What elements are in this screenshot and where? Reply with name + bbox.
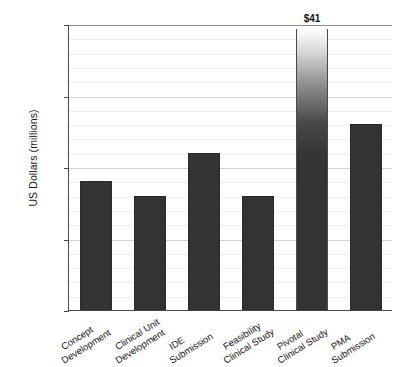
bar (134, 196, 166, 310)
bar (80, 181, 112, 310)
x-axis-label: IDESubmission (167, 315, 223, 362)
y-tick-mark (64, 311, 69, 312)
y-tick-mark (64, 240, 69, 241)
y-tick-mark (64, 97, 69, 98)
x-axis-label: FeasibilityClinical Study (221, 315, 277, 362)
bar (350, 124, 382, 310)
bar-value-label: $41 (304, 13, 321, 24)
bar (188, 153, 220, 310)
y-tick-mark (64, 168, 69, 169)
x-axis-label: Clinical UnitDevelopment (113, 315, 169, 362)
x-axis-labels: ConceptDevelopmentClinical UnitDevelopme… (68, 313, 392, 367)
plot-area: $41 $0$5$10$15+$20 (68, 25, 392, 311)
x-axis-label: PivotalClinical Study (275, 315, 331, 362)
bar (296, 29, 328, 310)
y-tick-mark (64, 25, 69, 26)
x-axis-label: ConceptDevelopment (59, 315, 115, 362)
y-axis-title: US Dollars (millions) (27, 78, 39, 238)
x-axis-label: PMASubmission (329, 315, 385, 362)
bar-chart: US Dollars (millions) $41 $0$5$10$15+$20… (0, 0, 412, 367)
bar (242, 196, 274, 310)
bars-series: $41 (69, 25, 392, 310)
